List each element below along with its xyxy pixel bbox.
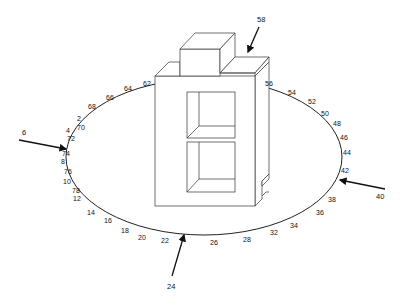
- ring-label: 14: [87, 209, 95, 216]
- diagram-canvas: 58 6 40 24 62 64 66 68 2 70 4 72 74 8 76…: [0, 0, 403, 306]
- ref-numeral-24: 24: [167, 282, 175, 291]
- ring-label: 8: [61, 158, 65, 165]
- block-object: [155, 33, 269, 206]
- ring-label: 68: [88, 103, 96, 110]
- ring-label: 78: [72, 187, 80, 194]
- upper-window: [187, 92, 235, 138]
- ring-label: 10: [63, 178, 71, 185]
- ring-label: 74: [62, 150, 70, 157]
- ref-numeral-6: 6: [22, 128, 26, 137]
- ring-label: 12: [73, 195, 81, 202]
- ring-label: 4: [66, 127, 70, 134]
- ring-label: 50: [321, 110, 329, 117]
- arrow-6: [19, 140, 66, 149]
- ring-label: 54: [288, 89, 296, 96]
- ring-label: 52: [308, 98, 316, 105]
- ring-label: 26: [210, 239, 218, 246]
- ring-label: 72: [67, 135, 75, 142]
- ring-label: 46: [340, 134, 348, 141]
- lower-window: [187, 142, 235, 192]
- ring-label: 64: [124, 85, 132, 92]
- ring-label: 76: [64, 168, 72, 175]
- ring-label: 28: [243, 236, 251, 243]
- ring-label: 22: [161, 237, 169, 244]
- ref-numeral-40: 40: [376, 192, 384, 201]
- ring-label: 56: [265, 80, 273, 87]
- arrow-58: [248, 27, 259, 52]
- ref-numeral-58: 58: [257, 15, 265, 24]
- ring-label: 34: [290, 222, 298, 229]
- ring-label: 70: [77, 124, 85, 131]
- ring-label: 62: [143, 80, 151, 87]
- ring-label: 32: [270, 229, 278, 236]
- ring-label: 42: [341, 167, 349, 174]
- ring-label: 16: [104, 217, 112, 224]
- ring-label: 38: [328, 196, 336, 203]
- ring-label: 2: [77, 115, 81, 122]
- arrow-40: [340, 180, 385, 189]
- ring-label: 48: [333, 120, 341, 127]
- ring-label: 36: [316, 209, 324, 216]
- ring-label: 20: [138, 234, 146, 241]
- ring-label: 18: [121, 227, 129, 234]
- ring-label: 66: [106, 94, 114, 101]
- ring-label: 44: [343, 149, 351, 156]
- arrow-24: [172, 235, 184, 276]
